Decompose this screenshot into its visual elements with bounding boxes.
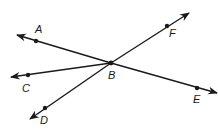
label-d: D [40, 114, 48, 126]
point-a [34, 39, 38, 43]
rays-diagram: ACDFEB [0, 0, 218, 134]
point-b [109, 61, 114, 66]
label-b: B [108, 69, 115, 81]
ray-be [111, 63, 217, 93]
label-e: E [193, 93, 201, 105]
point-d [43, 106, 47, 110]
label-c: C [22, 82, 30, 94]
ray-bd [30, 63, 111, 119]
point-e [195, 86, 199, 90]
point-c [26, 73, 30, 77]
ray-ba [17, 35, 111, 63]
ray-bf [111, 13, 189, 63]
label-a: A [34, 23, 42, 35]
label-f: F [169, 27, 177, 39]
